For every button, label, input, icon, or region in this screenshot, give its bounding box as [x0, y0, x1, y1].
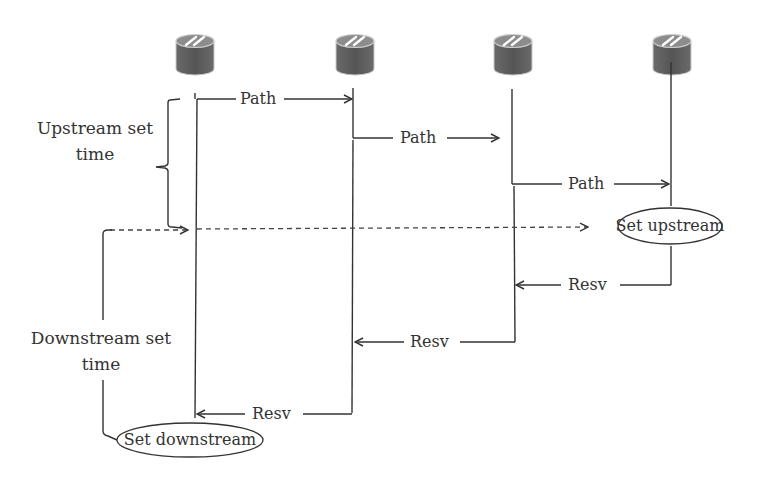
resv-label-3: Resv [252, 404, 291, 423]
set-upstream-node: Set upstream [616, 208, 725, 244]
resv-label-1: Resv [568, 275, 607, 294]
downstream-set-time-bracket: Downstream set time [31, 230, 172, 440]
resv-message-1: Resv [516, 275, 671, 294]
timeline-router-2 [352, 88, 353, 413]
path-message-3: Path [512, 174, 669, 193]
downstream-set-time-label-line1: Downstream set [31, 328, 172, 348]
router-icon-4 [653, 35, 691, 76]
router-icon-2 [336, 35, 374, 76]
timeline-router-3 [512, 89, 515, 342]
resv-message-2: Resv [355, 332, 515, 351]
router-icon-3 [494, 35, 532, 76]
upstream-set-time-label-line1: Upstream set [37, 118, 153, 138]
router-icon-1 [176, 35, 214, 76]
resv-message-3: Resv [197, 404, 352, 423]
path-label-2: Path [400, 128, 436, 147]
path-label-3: Path [568, 174, 604, 193]
downstream-set-time-label-line2: time [82, 354, 120, 374]
set-upstream-label: Set upstream [616, 216, 725, 235]
path-label-1: Path [240, 89, 276, 108]
upstream-set-time-brace: Upstream set time [37, 99, 182, 228]
timeline-router-1 [195, 93, 197, 418]
path-message-1: Path [197, 89, 352, 108]
upstream-set-time-label-line2: time [76, 144, 114, 164]
set-downstream-node: Set downstream [117, 423, 263, 457]
rsvp-sequence-diagram: Path Path Path Set upstream R [0, 0, 771, 481]
path-message-2: Path [353, 128, 499, 147]
resv-label-2: Resv [410, 332, 449, 351]
set-downstream-label: Set downstream [124, 430, 256, 449]
